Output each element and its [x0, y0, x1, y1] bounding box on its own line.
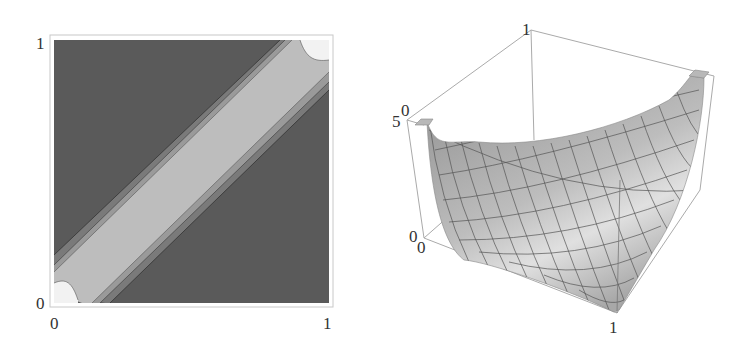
x-tick-end: 1 [609, 318, 618, 337]
x-tick-left: 0 [50, 314, 59, 333]
y-tick-bottom: 0 [36, 294, 45, 313]
z-tick-max: 5 [392, 112, 401, 131]
surface-mesh [415, 70, 709, 312]
x-tick-origin: 0 [417, 238, 426, 257]
y-tick-top: 1 [36, 34, 45, 53]
contour-fill [54, 40, 329, 303]
contour-plot-panel: 1 0 0 1 [0, 0, 369, 345]
surface-plot-panel: 1 5 0 0 0 1 [369, 0, 738, 345]
axis-tick-top: 1 [522, 20, 531, 39]
contour-plot: 1 0 0 1 [0, 0, 369, 345]
surface-plot: 1 5 0 0 0 1 [369, 0, 738, 345]
z-tick-max-zero: 0 [401, 101, 410, 120]
x-tick-right: 1 [323, 314, 332, 333]
